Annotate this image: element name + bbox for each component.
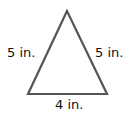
base-label: 4 in. — [55, 98, 83, 111]
right-side-label: 5 in. — [95, 46, 123, 59]
left-side-label: 5 in. — [7, 46, 35, 59]
